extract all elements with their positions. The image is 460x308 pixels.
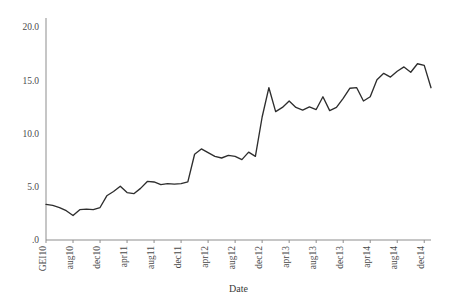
x-axis-tick-label: apr13 <box>281 246 291 268</box>
x-axis-tick-label: dec13 <box>335 246 345 269</box>
x-axis-tick-label: aug10 <box>65 246 75 269</box>
y-axis-tick-label: .0 <box>32 235 39 245</box>
x-axis-tick-label: dec14 <box>416 246 426 269</box>
x-axis-tick-label: apr14 <box>362 246 372 268</box>
x-axis-tick-label: aug12 <box>227 246 237 269</box>
x-axis-tick-label: apr12 <box>200 246 210 268</box>
y-axis-tick-label: 5.0 <box>27 182 39 192</box>
x-axis-tick-label: aug11 <box>146 246 156 269</box>
x-axis-tick-label: aug14 <box>389 246 399 269</box>
x-axis-tick-label: apr11 <box>119 246 129 268</box>
x-axis-tick-label: dec12 <box>254 246 264 269</box>
y-axis-tick-label: 15.0 <box>22 76 39 86</box>
x-axis-tick-label: aug13 <box>308 246 318 269</box>
data-series-line <box>46 64 431 216</box>
x-axis-tick-label: dec10 <box>92 246 102 269</box>
x-axis-tick-label: GEI10 <box>38 246 48 272</box>
x-axis-title: Date <box>229 283 248 294</box>
y-axis-tick-label: 10.0 <box>22 129 39 139</box>
x-axis-tick-labels: GEI10aug10dec10apr11aug11dec11apr12aug12… <box>38 246 426 272</box>
y-axis-tick-labels: .05.010.015.020.0 <box>22 22 39 245</box>
chart-canvas: .05.010.015.020.0 GEI10aug10dec10apr11au… <box>0 0 460 308</box>
y-axis-tick-label: 20.0 <box>22 22 39 32</box>
x-axis-tick-label: dec11 <box>173 246 183 269</box>
line-chart: .05.010.015.020.0 GEI10aug10dec10apr11au… <box>0 0 460 308</box>
